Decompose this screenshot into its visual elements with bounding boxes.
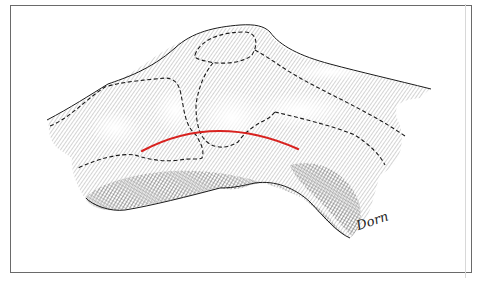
knee-illustration	[0, 0, 478, 282]
